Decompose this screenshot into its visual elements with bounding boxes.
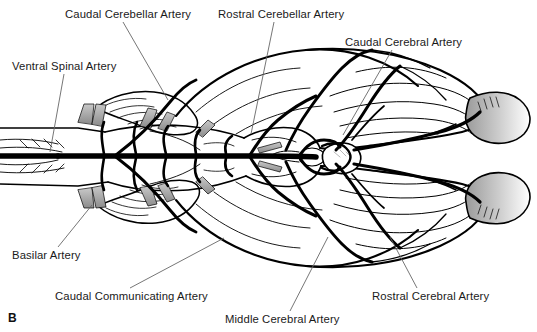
label-rostral-cerebellar-artery: Rostral Cerebellar Artery [218, 8, 344, 20]
caudal-cerebellar-artery-left [116, 80, 196, 155]
rostral-cerebral-artery-left [354, 112, 480, 150]
label-basilar-artery: Basilar Artery [12, 249, 81, 261]
label-caudal-communicating-artery: Caudal Communicating Artery [55, 290, 208, 302]
label-middle-cerebral-artery: Middle Cerebral Artery [225, 313, 340, 325]
cerebral-hemisphere-left [306, 49, 486, 149]
middle-cerebral-artery-left [336, 66, 400, 150]
caudal-cerebral-artery-left [286, 50, 372, 150]
anatomical-figure: Caudal Cerebellar Artery Rostral Cerebel… [0, 0, 537, 332]
caudal-cerebral-artery-right [286, 162, 372, 262]
label-caudal-cerebellar-artery: Caudal Cerebellar Artery [65, 8, 191, 20]
cerebral-hemisphere-right [306, 166, 486, 267]
middle-cerebral-artery-right [336, 164, 400, 248]
leader-ventral-spinal-artery [50, 74, 64, 152]
basilar-artery-path [58, 156, 316, 157]
leader-caudal-communicating-artery [130, 238, 224, 288]
brain-artery-illustration [0, 0, 537, 332]
leader-rostral-cerebral-artery [390, 237, 417, 288]
leader-basilar-artery [58, 205, 92, 247]
panel-letter: B [8, 311, 17, 325]
label-caudal-cerebral-artery: Caudal Cerebral Artery [345, 36, 462, 48]
leader-caudal-cerebellar-artery [123, 22, 168, 100]
label-rostral-cerebral-artery: Rostral Cerebral Artery [372, 290, 489, 302]
label-ventral-spinal-artery: Ventral Spinal Artery [12, 60, 116, 72]
